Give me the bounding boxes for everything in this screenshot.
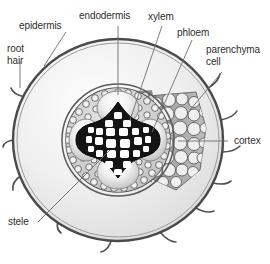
label-cortex: cortex (234, 135, 261, 147)
root-diagram-svg (0, 0, 270, 264)
root-cross-section-diagram: epidermis root hair endodermis xylem phl… (0, 0, 270, 264)
label-endodermis: endodermis (79, 10, 130, 22)
root-hair (160, 232, 176, 242)
label-phloem: phloem (177, 27, 209, 39)
label-root-hair: root hair (7, 43, 24, 66)
root-hair (222, 146, 240, 152)
label-epidermis: epidermis (19, 20, 61, 32)
label-stele: stele (8, 216, 29, 228)
root-hair (196, 208, 214, 212)
root-hair (221, 111, 237, 120)
root-hair (213, 181, 231, 184)
label-parenchyma-cell: parenchyma cell (206, 44, 260, 67)
label-xylem: xylem (148, 11, 174, 23)
